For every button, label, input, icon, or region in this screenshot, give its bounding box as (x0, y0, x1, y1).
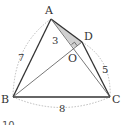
label-O: O (68, 52, 77, 65)
label-B: B (1, 93, 9, 106)
length-DC: 5 (102, 64, 108, 75)
length-AO: 3 (52, 35, 58, 46)
label-D: D (84, 30, 93, 43)
label-C: C (112, 93, 120, 106)
length-BC: 8 (59, 103, 65, 114)
quadrilateral-diagram: A D O B C 3 7 5 8 10 (0, 0, 121, 125)
label-A: A (44, 4, 54, 17)
diagonal-AC (51, 19, 110, 97)
length-AB: 7 (18, 52, 24, 63)
partial-bottom-text: 10 (2, 120, 15, 125)
